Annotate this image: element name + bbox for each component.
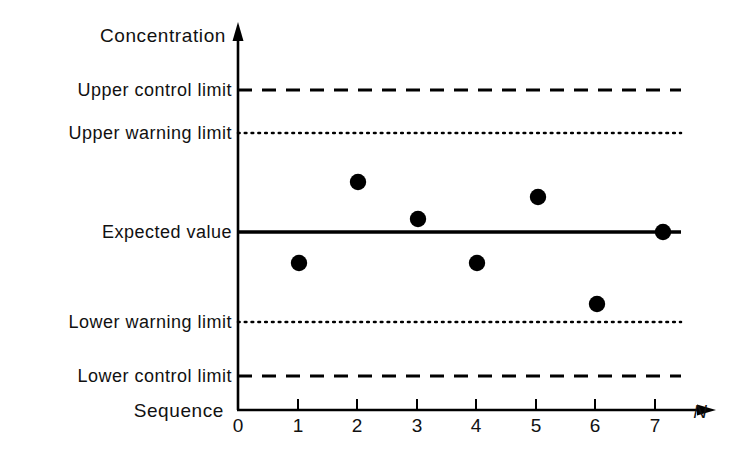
lower-warning-limit-label: Lower warning limit — [68, 312, 232, 332]
x-tick-label-0: 0 — [233, 415, 244, 436]
upper-control-limit-label: Upper control limit — [77, 80, 232, 100]
reference-lines-group — [238, 90, 681, 376]
x-tick-label-4: 4 — [471, 415, 482, 436]
data-point-6 — [589, 296, 605, 312]
y-axis-group — [233, 22, 244, 410]
data-point-2 — [350, 174, 366, 190]
x-tick-label-2: 2 — [352, 415, 363, 436]
y-axis-arrow-icon — [233, 22, 244, 41]
data-point-7 — [655, 224, 671, 240]
data-point-3 — [410, 211, 426, 227]
x-axis-title: Sequence — [134, 400, 224, 421]
y-axis-title: Concentration — [100, 25, 226, 46]
control-chart-figure: Concentration Sequence N Upper control l… — [0, 0, 738, 449]
x-tick-label-5: 5 — [531, 415, 542, 436]
x-tick-label-7: 7 — [650, 415, 661, 436]
upper-warning-limit-label: Upper warning limit — [68, 123, 232, 143]
x-axis-group — [237, 393, 716, 416]
x-tick-label-1: 1 — [293, 415, 304, 436]
x-tick-label-6: 6 — [590, 415, 601, 436]
data-points-group — [291, 174, 671, 312]
x-tick-label-3: 3 — [412, 415, 423, 436]
data-point-5 — [530, 189, 546, 205]
data-point-1 — [291, 255, 307, 271]
data-point-4 — [469, 255, 485, 271]
x-axis-variable-label: N — [693, 401, 707, 422]
lower-control-limit-label: Lower control limit — [77, 366, 232, 386]
expected-value-label: Expected value — [102, 222, 232, 242]
control-chart-svg: Concentration Sequence N Upper control l… — [0, 0, 738, 449]
